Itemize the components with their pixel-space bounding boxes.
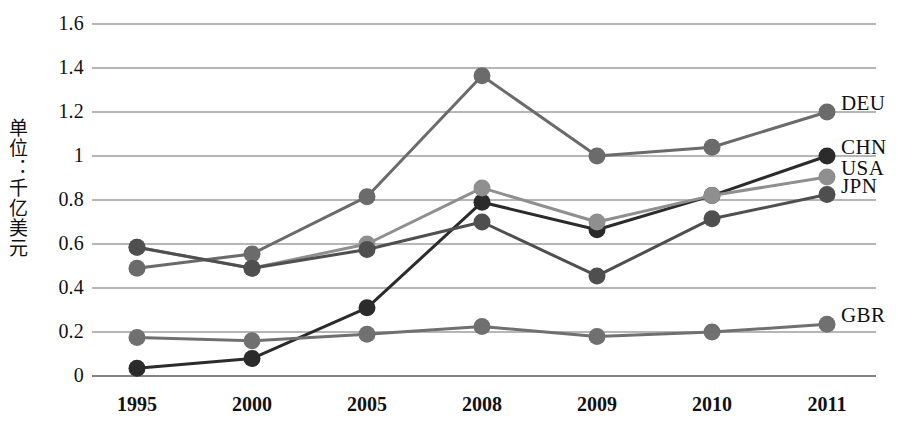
data-point-marker[interactable] <box>589 267 606 284</box>
y-tick-label: 0.8 <box>22 189 84 209</box>
data-point-marker[interactable] <box>819 104 836 121</box>
data-point-marker[interactable] <box>704 210 721 227</box>
y-tick-label: 0.2 <box>22 321 84 341</box>
y-tick-label: 1 <box>22 145 84 165</box>
data-point-marker[interactable] <box>589 148 606 165</box>
plot-area <box>0 0 904 432</box>
data-point-marker[interactable] <box>359 241 376 258</box>
series-label-chn: CHN <box>841 137 887 158</box>
data-point-marker[interactable] <box>474 318 491 335</box>
data-point-marker[interactable] <box>819 168 836 185</box>
series-label-jpn: JPN <box>841 176 877 197</box>
x-tick-label: 2000 <box>207 394 297 414</box>
data-point-marker[interactable] <box>819 148 836 165</box>
y-tick-label: 1.6 <box>22 13 84 33</box>
data-series-group <box>129 67 836 377</box>
y-tick-label: 0 <box>22 365 84 385</box>
data-point-marker[interactable] <box>589 214 606 231</box>
data-point-marker[interactable] <box>704 187 721 204</box>
data-point-marker[interactable] <box>474 179 491 196</box>
series-label-deu: DEU <box>841 93 885 114</box>
y-tick-label: 1.4 <box>22 57 84 77</box>
y-tick-label: 0.6 <box>22 233 84 253</box>
data-point-marker[interactable] <box>244 260 261 277</box>
data-point-marker[interactable] <box>474 67 491 84</box>
data-point-marker[interactable] <box>704 139 721 156</box>
data-point-marker[interactable] <box>474 214 491 231</box>
data-point-marker[interactable] <box>359 188 376 205</box>
y-tick-label: 1.2 <box>22 101 84 121</box>
data-point-marker[interactable] <box>819 186 836 203</box>
line-chart-figure: 单位：千亿美元 00.20.40.60.811.21.41.6 19952000… <box>0 0 904 432</box>
series-deu <box>129 67 836 277</box>
x-tick-label: 2008 <box>437 394 527 414</box>
data-point-marker[interactable] <box>359 326 376 343</box>
data-point-marker[interactable] <box>129 260 146 277</box>
series-line-deu <box>137 76 827 269</box>
data-point-marker[interactable] <box>704 324 721 341</box>
data-point-marker[interactable] <box>244 350 261 367</box>
data-point-marker[interactable] <box>244 332 261 349</box>
data-point-marker[interactable] <box>819 316 836 333</box>
x-tick-label: 2011 <box>782 394 872 414</box>
x-tick-label: 2009 <box>552 394 642 414</box>
data-point-marker[interactable] <box>359 299 376 316</box>
y-tick-label: 0.4 <box>22 277 84 297</box>
data-point-marker[interactable] <box>129 239 146 256</box>
data-point-marker[interactable] <box>129 360 146 377</box>
x-tick-label: 1995 <box>92 394 182 414</box>
x-tick-label: 2010 <box>667 394 757 414</box>
data-point-marker[interactable] <box>589 328 606 345</box>
data-point-marker[interactable] <box>129 329 146 346</box>
series-label-gbr: GBR <box>841 305 885 326</box>
x-tick-label: 2005 <box>322 394 412 414</box>
